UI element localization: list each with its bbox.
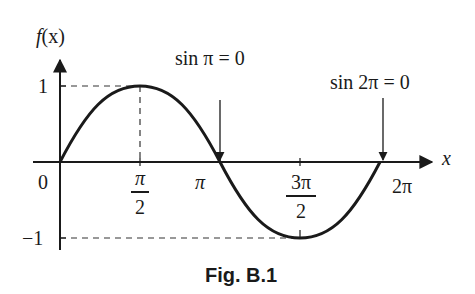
y-tick-1: 1 bbox=[38, 76, 48, 96]
y-axis-label: f(x) bbox=[36, 26, 65, 46]
x-tick-2pi: 2π bbox=[392, 176, 412, 196]
figure-caption: Fig. B.1 bbox=[205, 264, 277, 287]
pi-half-denominator: 2 bbox=[135, 196, 145, 218]
three-pi-half-denominator: 2 bbox=[296, 200, 306, 222]
x-axis-label: x bbox=[442, 148, 451, 168]
sine-chart bbox=[0, 0, 475, 294]
y-label-arg: (x) bbox=[42, 25, 65, 47]
annotation-sin-2pi: sin 2π = 0 bbox=[330, 72, 410, 92]
y-tick-minus-1: −1 bbox=[22, 228, 43, 248]
fraction-bar bbox=[131, 191, 149, 193]
fraction-bar bbox=[286, 195, 316, 197]
annotation-sin-pi: sin π = 0 bbox=[175, 48, 245, 68]
x-tick-pi-half: π 2 bbox=[131, 168, 149, 217]
x-tick-0: 0 bbox=[38, 172, 48, 192]
x-tick-three-pi-half: 3π 2 bbox=[286, 172, 316, 221]
x-tick-pi: π bbox=[195, 172, 205, 192]
pi-half-numerator: π bbox=[135, 167, 145, 189]
three-pi-half-numerator: 3π bbox=[291, 171, 311, 193]
